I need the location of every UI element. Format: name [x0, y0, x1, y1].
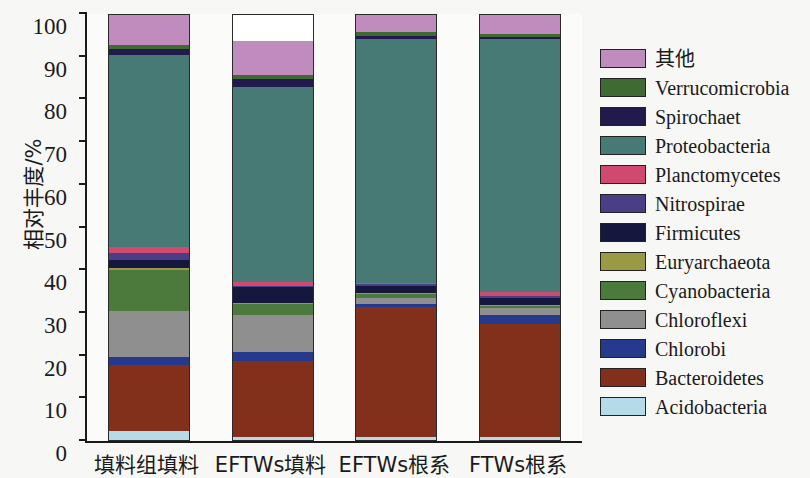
bar-segment: [109, 431, 189, 440]
bar-segment: [109, 49, 189, 55]
legend-label: Proteobacteria: [655, 136, 771, 156]
x-axis-label-1: 填料组填料: [94, 448, 199, 478]
legend-label: Chloroflexi: [655, 310, 747, 330]
bar-segment: [480, 315, 560, 325]
legend-label: Firmicutes: [655, 223, 741, 243]
bar-segment: [233, 41, 313, 75]
bar-segment: [356, 15, 436, 32]
y-axis-title: 相对丰度/%: [17, 94, 47, 294]
legend-item-1[interactable]: 其他: [600, 44, 805, 73]
bar-segment: [356, 36, 436, 39]
legend-item-10[interactable]: Chloroflexi: [600, 305, 805, 334]
legend-label: Spirochaet: [655, 107, 741, 127]
bar-segment: [480, 15, 560, 34]
legend-item-11[interactable]: Chlorobi: [600, 334, 805, 363]
bar-2: [232, 14, 314, 441]
y-axis-tick: 40: [79, 268, 87, 270]
bar-4: [479, 14, 561, 441]
legend-swatch-icon: [600, 397, 646, 416]
x-axis-label-3: EFTWs根系: [339, 448, 451, 478]
y-axis-title-container: 相对丰度/%: [0, 0, 34, 478]
legend-label: Nitrospirae: [655, 194, 745, 214]
bar-segment: [356, 284, 436, 285]
y-axis-tick: 100: [79, 12, 87, 14]
bar-segment: [233, 286, 313, 288]
bar-segment: [109, 55, 189, 246]
y-axis-tick: 70: [79, 140, 87, 142]
bar-segment: [233, 437, 313, 440]
legend-item-2[interactable]: Verrucomicrobia: [600, 73, 805, 102]
bar-segment: [109, 15, 189, 45]
bar-segment: [109, 260, 189, 268]
bar-segment: [233, 303, 313, 305]
bar-segment: [233, 282, 313, 285]
bar-segment: [480, 292, 560, 297]
bar-segment: [480, 306, 560, 308]
bar-segment: [480, 37, 560, 39]
legend-label: Verrucomicrobia: [655, 78, 789, 98]
bar-segment: [356, 304, 436, 308]
y-axis-tick: 50: [79, 226, 87, 228]
legend-label: Acidobacteria: [655, 397, 767, 417]
legend-item-12[interactable]: Bacteroidetes: [600, 363, 805, 392]
bar-segment: [233, 87, 313, 282]
bar-segment: [480, 34, 560, 37]
legend-label: 其他: [655, 49, 695, 69]
bar-1: [108, 14, 190, 441]
bar-segment: [109, 311, 189, 357]
legend-item-7[interactable]: Firmicutes: [600, 218, 805, 247]
bar-segment: [356, 283, 436, 284]
bar-segment: [109, 268, 189, 270]
legend-swatch-icon: [600, 49, 646, 68]
legend-item-3[interactable]: Spirochaet: [600, 102, 805, 131]
bar-segment: [480, 39, 560, 291]
legend-swatch-icon: [600, 136, 646, 155]
legend-swatch-icon: [600, 78, 646, 97]
legend-item-8[interactable]: Euryarchaeota: [600, 247, 805, 276]
legend-swatch-icon: [600, 165, 646, 184]
legend: 其他VerrucomicrobiaSpirochaetProteobacteri…: [600, 44, 805, 421]
bar-segment: [109, 253, 189, 259]
bar-segment: [480, 305, 560, 306]
bar-segment: [109, 365, 189, 431]
bar-segment: [480, 308, 560, 315]
bar-segment: [480, 437, 560, 440]
bar-segment: [233, 352, 313, 361]
bar-segment: [109, 270, 189, 312]
legend-swatch-icon: [600, 223, 646, 242]
bar-segment: [109, 247, 189, 254]
bar-segment: [356, 39, 436, 283]
legend-item-4[interactable]: Proteobacteria: [600, 131, 805, 160]
bar-segment: [480, 296, 560, 297]
legend-item-13[interactable]: Acidobacteria: [600, 392, 805, 421]
legend-label: Cyanobacteria: [655, 281, 771, 301]
y-axis-tick: 10: [79, 396, 87, 398]
legend-swatch-icon: [600, 252, 646, 271]
x-axis-label-2: EFTWs填料: [215, 448, 327, 478]
legend-item-5[interactable]: Planctomycetes: [600, 160, 805, 189]
y-axis-tick: 80: [79, 97, 87, 99]
y-axis-tick: 90: [79, 55, 87, 57]
legend-swatch-icon: [600, 339, 646, 358]
bar-segment: [233, 361, 313, 437]
y-axis-tick: 60: [79, 183, 87, 185]
legend-label: Planctomycetes: [655, 165, 781, 185]
legend-item-9[interactable]: Cyanobacteria: [600, 276, 805, 305]
bar-segment: [356, 437, 436, 440]
bar-segment: [233, 287, 313, 302]
legend-item-6[interactable]: Nitrospirae: [600, 189, 805, 218]
legend-swatch-icon: [600, 194, 646, 213]
bar-segment: [480, 324, 560, 437]
y-axis-tick: 30: [79, 311, 87, 313]
bar-segment: [233, 79, 313, 87]
bar-3: [355, 14, 437, 441]
bar-segment: [233, 304, 313, 315]
bar-segment: [356, 294, 436, 298]
bar-segment: [356, 298, 436, 303]
bar-segment: [109, 357, 189, 365]
bar-segment: [480, 298, 560, 305]
legend-label: Bacteroidetes: [655, 368, 764, 388]
plot-area: 0102030405060708090100: [85, 14, 582, 443]
bar-segment: [109, 45, 189, 50]
bar-segment: [356, 307, 436, 437]
